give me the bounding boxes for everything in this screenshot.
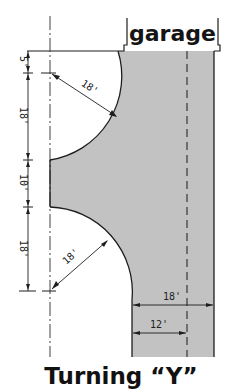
lower-radius-arrow-end	[101, 240, 108, 247]
width-dimension-label: 18'	[163, 291, 181, 302]
lane-dimension-label: 12'	[150, 319, 168, 330]
dim-label-10ft: 10'	[18, 174, 29, 192]
lower-radius-line	[52, 241, 107, 289]
dim-label-18ft-lower: 18'	[18, 240, 29, 258]
upper-radius-arrow-start	[52, 74, 60, 80]
dim-label-18ft-upper: 18'	[18, 107, 29, 125]
garage-bracket	[118, 18, 127, 51]
turning-y-diagram: garage 5' 18' 10' 18' 18' 18' 18'	[0, 0, 235, 392]
lower-radius-arrow-start	[52, 281, 59, 289]
diagram-title: Turning “Y”	[44, 363, 197, 389]
lower-radius-label: 18'	[60, 246, 81, 266]
garage-label: garage	[129, 21, 216, 46]
dim-label-5ft: 5'	[18, 56, 29, 68]
